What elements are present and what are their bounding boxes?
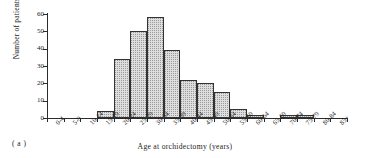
histogram-bar bbox=[147, 17, 164, 118]
y-tick-label: 40 bbox=[37, 44, 44, 52]
y-axis-title: Number of patients bbox=[12, 0, 21, 79]
histogram-bar bbox=[130, 31, 147, 118]
histogram-figure: Number of patients 0102030405060 0-45-91… bbox=[0, 0, 370, 158]
y-tick-label: 10 bbox=[37, 96, 44, 104]
histogram-bar bbox=[114, 59, 131, 118]
x-axis-title: Age at orchidectomy (years) bbox=[0, 142, 370, 151]
y-tick-label: 30 bbox=[37, 62, 44, 70]
x-tick-mark bbox=[47, 118, 48, 122]
y-tick-label: 0 bbox=[41, 114, 45, 122]
y-tick-label: 20 bbox=[37, 79, 44, 87]
panel-caption: ( a ) bbox=[12, 139, 27, 148]
plot-area: 0102030405060 bbox=[47, 14, 347, 118]
y-tick-label: 50 bbox=[37, 27, 44, 35]
histogram-bar bbox=[164, 50, 181, 118]
y-tick-label: 60 bbox=[37, 10, 44, 18]
